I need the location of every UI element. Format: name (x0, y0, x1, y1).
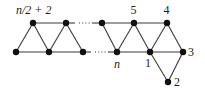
edge (33, 23, 49, 52)
edge (117, 23, 134, 52)
edge (134, 23, 150, 52)
graph-diagram: n/2 + 2 5 4 3 2 1 n (0, 0, 205, 92)
vertex (30, 20, 36, 26)
vertex-n (114, 49, 120, 55)
vertex-3 (180, 49, 186, 55)
vertex (13, 49, 19, 55)
edge (16, 23, 33, 52)
vertex-1 (147, 49, 153, 55)
label-4: 4 (164, 3, 170, 17)
label-n-half-plus-2: n/2 + 2 (16, 3, 51, 17)
vertex (46, 49, 52, 55)
edge (167, 23, 183, 52)
vertex (80, 49, 86, 55)
edge (102, 23, 117, 52)
vertex (63, 20, 69, 26)
vertex (99, 20, 105, 26)
label-n: n (114, 57, 120, 71)
edge (49, 23, 66, 52)
label-2: 2 (174, 75, 180, 89)
vertex-2 (165, 79, 171, 85)
edge (150, 23, 167, 52)
vertex-4 (164, 20, 170, 26)
vertex-5 (131, 20, 137, 26)
label-3: 3 (188, 45, 194, 59)
label-5: 5 (131, 3, 137, 17)
label-1: 1 (145, 56, 151, 70)
edge (66, 23, 83, 52)
edge (150, 52, 168, 82)
